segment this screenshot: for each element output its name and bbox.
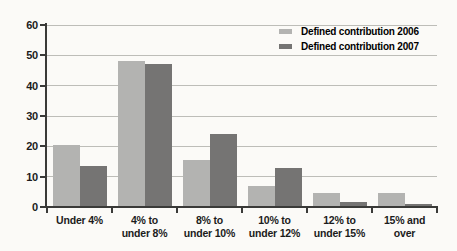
legend-swatch-2007-icon [279,44,292,49]
y-axis-tick-label: 10 [12,171,38,183]
bar [145,64,172,207]
y-axis-tick-label: 60 [12,19,38,31]
bar [210,134,237,207]
gridline [47,116,437,117]
y-axis-tick-label: 30 [12,110,38,122]
x-axis-tick [241,208,243,213]
x-axis-label-line: Under 4% [47,214,112,227]
bar [378,193,405,207]
x-axis-label-line: over [372,227,437,240]
bar [313,193,340,207]
x-axis-category-label: 4% tounder 8% [112,214,177,240]
x-axis-label-line: under 15% [307,227,372,240]
legend-label-2006: Defined contribution 2006 [301,26,419,37]
gridline [47,85,437,86]
x-axis-tick [306,208,308,213]
y-axis-tick-label: 50 [12,49,38,61]
legend-item-2006: Defined contribution 2006 [279,24,419,39]
gridline [47,55,437,56]
bar [53,145,80,207]
x-axis-tick [436,208,438,213]
x-axis-category-label: 10% tounder 12% [242,214,307,240]
gridline [47,146,437,147]
y-axis-tick-label: 20 [12,140,38,152]
legend: Defined contribution 2006 Defined contri… [279,24,419,54]
x-axis-category-label: Under 4% [47,214,112,227]
x-axis-label-line: 10% to [242,214,307,227]
bar [118,61,145,207]
y-axis-tick-label: 0 [12,201,38,213]
x-axis-label-line: 12% to [307,214,372,227]
legend-swatch-2006-icon [279,29,292,34]
bar [80,166,107,207]
bar-chart: 0102030405060Under 4%4% tounder 8%8% tou… [0,0,457,251]
x-axis-label-line: under 12% [242,227,307,240]
x-axis-label-line: 8% to [177,214,242,227]
x-axis-label-line: under 10% [177,227,242,240]
legend-label-2007: Defined contribution 2007 [301,41,419,52]
x-axis-tick [46,208,48,213]
x-axis-label-line: 4% to [112,214,177,227]
y-axis-line [45,23,47,208]
bar [248,186,275,207]
x-axis-label-line: 15% and [372,214,437,227]
x-axis-category-label: 15% andover [372,214,437,240]
y-axis-tick-label: 40 [12,80,38,92]
x-axis-tick [371,208,373,213]
x-axis-category-label: 8% tounder 10% [177,214,242,240]
x-axis-tick [111,208,113,213]
legend-item-2007: Defined contribution 2007 [279,39,419,54]
x-axis-tick [176,208,178,213]
bar [275,168,302,207]
bar [183,160,210,207]
x-axis-category-label: 12% tounder 15% [307,214,372,240]
x-axis-label-line: under 8% [112,227,177,240]
